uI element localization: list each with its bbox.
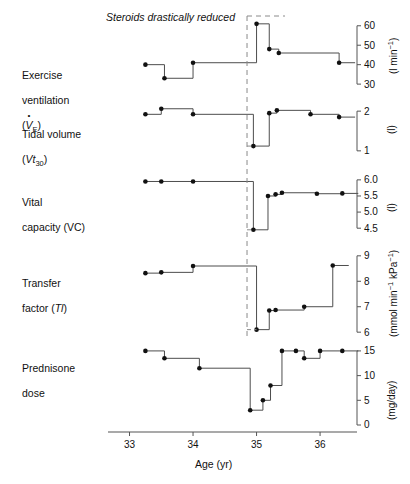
data-point: [337, 115, 342, 120]
intervention-annotation: Steroids drastically reduced: [106, 11, 235, 23]
data-point: [248, 408, 253, 413]
panel-4-y-axis: 6789: [357, 250, 370, 337]
y-tick-label: 0: [364, 419, 370, 430]
data-point: [191, 112, 196, 117]
data-point: [294, 349, 299, 354]
data-point: [302, 304, 307, 309]
data-point: [302, 356, 307, 361]
x-tick-label: 33: [124, 439, 136, 450]
panel-1-series: [143, 22, 355, 81]
panel-2-units: (l): [386, 125, 397, 134]
data-point: [254, 22, 259, 27]
data-point: [267, 308, 272, 313]
panel-3-units: (l): [386, 203, 397, 212]
y-tick-label: 9: [364, 250, 370, 261]
data-point: [266, 194, 271, 199]
y-tick-label: 5.0: [364, 206, 378, 217]
data-point: [280, 190, 285, 195]
y-tick-label: 7: [364, 301, 370, 312]
panel-2-label-line1: Tidal volume: [22, 128, 81, 140]
data-point: [315, 191, 320, 196]
data-point: [191, 179, 196, 184]
data-point: [162, 356, 167, 361]
y-tick-label: 2: [364, 106, 370, 117]
y-tick-label: 50: [364, 40, 376, 51]
data-point: [318, 349, 323, 354]
data-point: [143, 62, 148, 67]
panel-2-label-line2: (Vt30): [22, 153, 47, 165]
panel-2-step-line: [145, 109, 355, 146]
y-tick-label: 4.5: [364, 223, 378, 234]
series-layer: [143, 22, 358, 413]
y-tick-label: 8: [364, 276, 370, 287]
panel-2-y-axis: 12: [357, 106, 370, 157]
y-tick-label: 6: [364, 327, 370, 338]
y-tick-label: 6.0: [364, 174, 378, 185]
y-tick-label: 10: [364, 370, 376, 381]
respiratory-function-figure: Exercise ventilation (VE) Tidal volume (…: [0, 0, 410, 484]
panel-3-label-line1: Vital: [22, 196, 42, 208]
panel-4-units: (mmol min−1 kPa−1): [386, 250, 399, 337]
data-point: [337, 60, 342, 65]
data-point: [251, 228, 256, 233]
panel-1-units: (l min−1): [386, 38, 399, 74]
data-point: [143, 112, 148, 117]
data-point: [197, 366, 202, 371]
panel-2-series: [143, 106, 355, 148]
y-tick-label: 40: [364, 59, 376, 70]
panel-5-step-line: [145, 351, 358, 410]
x-tick-label: 34: [187, 439, 199, 450]
data-point: [276, 51, 281, 56]
y-tick-label: 15: [364, 345, 376, 356]
panel-5-label-line2: dose: [22, 387, 45, 399]
data-point: [330, 263, 335, 268]
x-tick-label: 36: [315, 439, 327, 450]
y-tick-label: 30: [364, 79, 376, 90]
panel-5-y-axis: 051015: [357, 345, 376, 430]
x-tick-label: 35: [251, 439, 263, 450]
panel-1-label-line2: ventilation: [22, 94, 69, 106]
axes-layer: 30405060124.55.05.56.0678905101533343536: [108, 16, 378, 450]
x-axis-title: Age (yr): [195, 458, 232, 470]
data-point: [340, 191, 345, 196]
data-point: [251, 144, 256, 149]
panel-5-units: (mg/day): [386, 381, 397, 420]
data-point: [162, 76, 167, 81]
data-point: [143, 349, 148, 354]
y-tick-label: 5.5: [364, 190, 378, 201]
data-point: [273, 192, 278, 197]
y-tick-label: 1: [364, 145, 370, 156]
panel-1-y-axis: 30405060: [357, 20, 376, 89]
data-point: [191, 60, 196, 65]
panel-5-label-line1: Prednisone: [22, 362, 75, 374]
data-point: [159, 106, 164, 111]
y-tick-label: 5: [364, 395, 370, 406]
panel-5-series: [143, 349, 358, 413]
y-tick-label: 60: [364, 20, 376, 31]
panel-4-series: [143, 263, 349, 332]
panel-3-label-line2: capacity (VC): [22, 221, 85, 233]
panel-4-label: Transfer factor (Tl): [22, 264, 67, 314]
data-point: [273, 308, 278, 313]
data-point: [261, 398, 266, 403]
panel-4-label-line2: factor (Tl): [22, 302, 67, 314]
panel-3-series: [143, 179, 358, 232]
panel-3-step-line: [145, 181, 358, 229]
data-point: [267, 47, 272, 52]
data-point: [308, 112, 313, 117]
data-point: [143, 271, 148, 276]
data-point: [340, 349, 345, 354]
data-point: [191, 264, 196, 269]
panel-2-label: Tidal volume (Vt30): [22, 115, 81, 170]
panel-3-y-axis: 4.55.05.56.0: [357, 174, 378, 233]
panel-3-label: Vital capacity (VC): [22, 183, 85, 233]
panel-5-label: Prednisone dose: [22, 349, 75, 399]
panel-1-label-line1: Exercise: [22, 69, 62, 81]
data-point: [159, 270, 164, 275]
panel-1-step-line: [145, 24, 355, 78]
data-point: [159, 179, 164, 184]
data-point: [267, 111, 272, 116]
data-point: [275, 108, 280, 113]
data-point: [143, 179, 148, 184]
panel-4-label-line1: Transfer: [22, 277, 61, 289]
